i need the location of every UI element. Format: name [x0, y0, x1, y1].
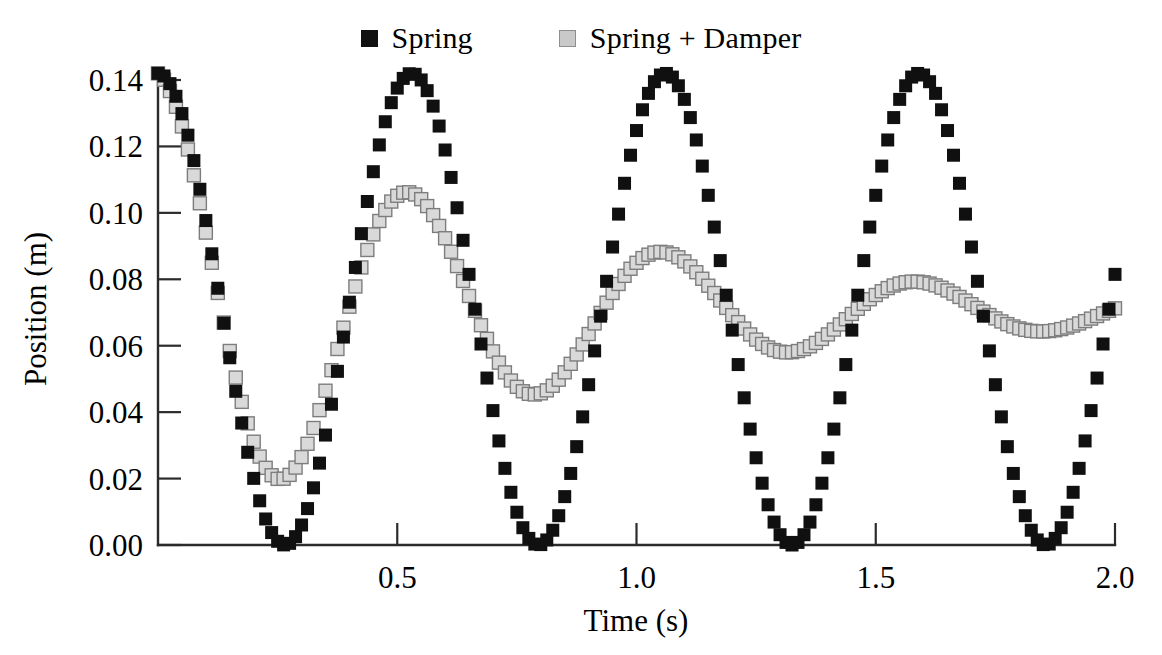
data-point-marker: [1109, 268, 1122, 281]
data-point-marker: [474, 319, 487, 332]
data-point-marker: [355, 227, 368, 240]
data-point-marker: [510, 506, 523, 519]
data-point-marker: [1061, 506, 1074, 519]
data-point-marker: [463, 289, 476, 302]
data-point-marker: [181, 129, 194, 142]
data-point-marker: [1085, 404, 1098, 417]
data-point-marker: [995, 410, 1008, 423]
data-point-marker: [337, 331, 350, 344]
data-point-marker: [504, 486, 517, 499]
data-point-marker: [869, 189, 882, 202]
data-point-marker: [331, 343, 344, 356]
data-point-marker: [642, 87, 655, 100]
data-point-marker: [421, 84, 434, 97]
data-point-marker: [845, 324, 858, 337]
x-tick-label: 1.0: [617, 560, 656, 595]
data-point-marker: [762, 498, 775, 511]
data-point-marker: [1073, 462, 1086, 475]
data-point-marker: [373, 138, 386, 151]
data-point-marker: [821, 451, 834, 464]
data-point-marker: [983, 344, 996, 357]
data-point-marker: [319, 384, 332, 397]
data-point-marker: [289, 530, 302, 543]
data-point-marker: [989, 378, 1002, 391]
y-axis-tick-labels: 0.000.020.040.060.080.100.120.14: [89, 63, 144, 563]
data-point-marker: [217, 317, 230, 330]
data-point-marker: [331, 365, 344, 378]
data-point-marker: [606, 241, 619, 254]
y-tick-label: 0.08: [89, 262, 143, 297]
data-point-marker: [971, 275, 984, 288]
data-point-marker: [223, 351, 236, 364]
data-point-marker: [433, 120, 446, 133]
data-point-marker: [457, 234, 470, 247]
data-point-marker: [768, 516, 781, 529]
data-point-marker: [385, 96, 398, 109]
data-point-marker: [893, 93, 906, 106]
data-point-marker: [839, 358, 852, 371]
x-axis: 0.51.01.52.0 Time (s): [158, 523, 1134, 638]
data-point-marker: [1013, 490, 1026, 503]
data-point-marker: [797, 528, 810, 541]
data-point-marker: [175, 107, 188, 120]
x-tick-label: 1.5: [856, 560, 895, 595]
data-point-marker: [624, 149, 637, 162]
data-point-marker: [1103, 303, 1116, 316]
data-point-marker: [684, 111, 697, 124]
data-point-marker: [564, 467, 577, 480]
data-point-marker: [947, 149, 960, 162]
data-point-marker: [367, 165, 380, 178]
data-point-marker: [1055, 521, 1068, 534]
data-point-marker: [307, 421, 320, 434]
data-point-marker: [636, 103, 649, 116]
data-point-marker: [451, 201, 464, 214]
plot-area: 0.000.020.040.060.080.100.120.14 Positio…: [0, 0, 1162, 655]
data-point-marker: [1091, 372, 1104, 385]
data-point-marker: [588, 344, 601, 357]
data-point-marker: [319, 429, 332, 442]
data-point-marker: [552, 509, 565, 522]
data-point-marker: [546, 524, 559, 537]
y-tick-label: 0.02: [89, 462, 143, 497]
data-point-marker: [259, 512, 272, 525]
data-point-marker: [672, 79, 685, 92]
figure-spring-damper-position-plot: Spring Spring + Damper 0.000.020.040.060…: [0, 0, 1162, 655]
data-point-marker: [558, 490, 571, 503]
data-point-marker: [881, 133, 894, 146]
data-point-marker: [229, 385, 242, 398]
data-point-marker: [313, 457, 326, 470]
data-point-marker: [678, 93, 691, 106]
x-axis-tick-labels: 0.51.01.52.0: [378, 560, 1135, 595]
data-point-marker: [570, 440, 583, 453]
data-point-marker: [923, 75, 936, 88]
data-point-marker: [301, 502, 314, 515]
data-point-marker: [301, 437, 314, 450]
data-point-marker: [582, 378, 595, 391]
data-point-marker: [163, 77, 176, 90]
data-point-marker: [199, 214, 212, 227]
data-point-marker: [863, 221, 876, 234]
y-axis-ticks: [158, 80, 181, 545]
data-point-marker: [803, 516, 816, 529]
data-point-marker: [427, 100, 440, 113]
data-point-marker: [965, 241, 978, 254]
data-point-marker: [857, 254, 870, 267]
data-point-marker: [630, 124, 643, 137]
y-tick-label: 0.14: [89, 63, 144, 98]
data-point-marker: [1097, 338, 1110, 351]
data-point-marker: [498, 462, 511, 475]
data-point-marker: [295, 451, 308, 464]
data-point-marker: [935, 103, 948, 116]
data-point-marker: [325, 398, 338, 411]
data-point-marker: [307, 481, 320, 494]
chart-svg: 0.000.020.040.060.080.100.120.14 Positio…: [0, 0, 1162, 655]
data-point-marker: [343, 296, 356, 309]
data-point-marker: [612, 208, 625, 221]
y-axis-title: Position (m): [18, 232, 53, 386]
data-point-marker: [193, 183, 206, 196]
data-point-marker: [169, 90, 182, 103]
data-point-marker: [235, 417, 248, 430]
data-point-marker: [726, 324, 739, 337]
data-point-marker: [941, 124, 954, 137]
data-point-marker: [433, 219, 446, 232]
